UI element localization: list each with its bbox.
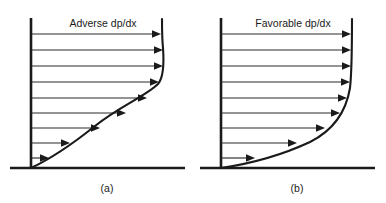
boundary-layer-figure: Adverse dp/dx [0, 0, 386, 203]
vector-arrow [221, 109, 340, 116]
vector-arrow [31, 46, 163, 53]
panel-b-velocity-profile-curve [221, 19, 352, 168]
panel-a-label: Adverse dp/dx [69, 17, 137, 29]
figure-container: Adverse dp/dx [0, 0, 386, 203]
panel-a: Adverse dp/dx [10, 17, 185, 194]
panel-a-velocity-profile-curve [31, 19, 163, 168]
panel-b: Favorable dp/dx [200, 17, 375, 194]
vector-arrow [221, 46, 351, 53]
vector-arrow [221, 30, 351, 37]
vector-arrow [221, 124, 325, 131]
vector-arrow [31, 78, 159, 85]
vector-arrow [221, 154, 255, 161]
panel-b-velocity-vectors [221, 30, 351, 161]
vector-arrow [221, 78, 350, 85]
panel-a-caption: (a) [101, 182, 114, 194]
vector-arrow [31, 139, 70, 146]
vector-arrow [31, 94, 147, 101]
vector-arrow [31, 62, 163, 69]
panel-b-label: Favorable dp/dx [255, 17, 331, 29]
vector-arrow [221, 62, 351, 69]
panel-b-caption: (b) [291, 182, 304, 194]
vector-arrow [221, 139, 297, 146]
vector-arrow [31, 30, 161, 37]
vector-arrow [221, 94, 347, 101]
